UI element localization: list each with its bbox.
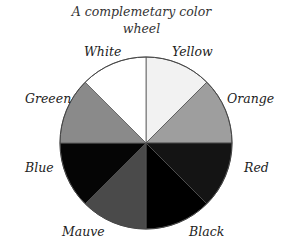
label-blue: Blue xyxy=(25,160,54,175)
label-white: White xyxy=(84,44,121,59)
color-wheel xyxy=(0,0,283,245)
label-green: Greeen xyxy=(25,91,71,106)
label-orange: Orange xyxy=(227,91,274,106)
label-black: Black xyxy=(189,224,224,239)
label-yellow: Yellow xyxy=(172,44,213,59)
label-mauve: Mauve xyxy=(62,224,105,239)
label-red: Red xyxy=(244,160,269,175)
